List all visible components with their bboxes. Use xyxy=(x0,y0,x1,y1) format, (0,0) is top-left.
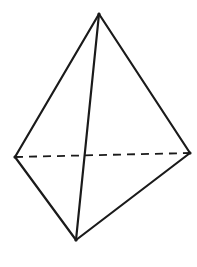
tetrahedron-drawing xyxy=(0,0,197,267)
vertex-right xyxy=(188,151,191,154)
vertex-left xyxy=(13,155,16,158)
edge-left-right-hidden xyxy=(15,153,190,157)
vertex-bottom xyxy=(74,238,77,241)
vertex-top xyxy=(97,12,100,15)
edge-top-right xyxy=(99,14,190,153)
edge-left-bottom xyxy=(15,157,76,240)
tetrahedron-diagram xyxy=(0,0,197,267)
edge-right-bottom xyxy=(76,153,190,240)
